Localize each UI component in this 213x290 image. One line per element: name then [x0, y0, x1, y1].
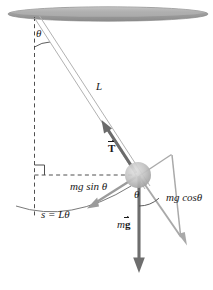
pendulum-figure: θ L T mg sin θ s = Lθ θ mg cosθ mg — [0, 0, 213, 290]
right-angle-marker — [35, 165, 45, 175]
label-radial-force: mg cosθ — [166, 192, 202, 203]
label-rod-length: L — [96, 81, 102, 92]
label-tension: T — [108, 143, 115, 154]
pendulum-rod — [35, 16, 151, 189]
label-theta-bob: θ — [134, 189, 139, 200]
label-arc-length-prefix: s = L — [41, 208, 64, 220]
label-weight-gravity: g — [125, 219, 131, 230]
ceiling — [8, 7, 208, 21]
label-arc-length: s = Lθ — [41, 209, 70, 220]
label-tension-text: T — [108, 143, 115, 154]
pendulum-bob — [125, 162, 151, 188]
label-weight-mass: m — [117, 218, 125, 230]
label-arc-length-theta: θ — [64, 208, 69, 220]
label-theta-pivot: θ — [36, 28, 41, 39]
label-tangential-force: mg sin θ — [70, 181, 107, 192]
label-radial-force-theta: θ — [197, 191, 202, 203]
label-weight: mg — [117, 219, 130, 230]
label-radial-force-prefix: mg cos — [166, 191, 197, 203]
pendulum-diagram-canvas — [0, 0, 213, 290]
theta-arc-pivot — [35, 42, 51, 47]
